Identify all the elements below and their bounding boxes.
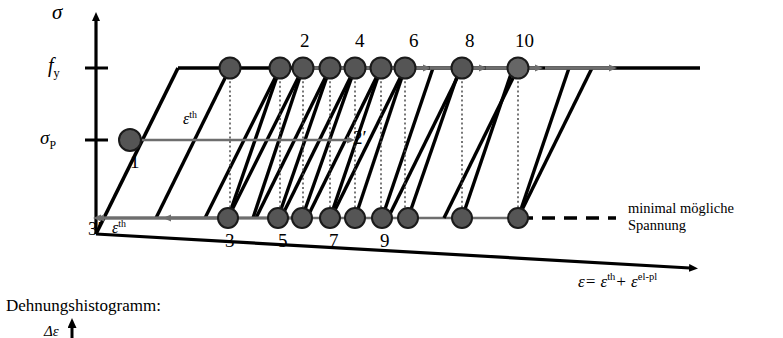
point-label-1: 1 [130, 152, 140, 171]
eps-th-sup-bottom: th [118, 218, 126, 229]
x-axis-label: ε= εth+ εel-pl [578, 272, 657, 290]
point-label-4: 4 [355, 31, 365, 50]
hysteresis-branches [156, 68, 592, 218]
branch-reload-3 [278, 68, 330, 218]
marker-top-8 [452, 58, 473, 79]
thermal-strain-label-bottom: εth [112, 219, 126, 236]
marker-top-3 [293, 58, 314, 79]
figure-caption: Dehnungshistogramm: [6, 297, 161, 314]
point-label-3-prime: 3′ [88, 219, 102, 238]
point-label-6: 6 [409, 31, 419, 50]
point-label-8: 8 [465, 31, 475, 50]
y-axis-label: σ [52, 2, 62, 23]
x-label-eq: = [585, 272, 596, 291]
marker-top-4 [320, 58, 341, 79]
point-label-10: 10 [515, 31, 534, 50]
x-label-lhs: ε [578, 272, 585, 291]
y-tick-label-sigmaP: σP [40, 128, 56, 152]
marker-bottom-7 [398, 208, 418, 228]
branch-unload-10 [518, 68, 592, 218]
min-stress-annotation-line2: Spannung [628, 217, 734, 234]
marker-bottom-9 [508, 208, 528, 228]
branch-reload-1 [228, 68, 280, 218]
x-label-plus: + [615, 272, 626, 291]
branch-reload-9 [462, 68, 513, 218]
eps-th-sup-top: th [189, 109, 197, 120]
x-label-term2: ε [631, 272, 638, 291]
sigmaP-base: σ [40, 127, 49, 148]
point-label-9: 9 [380, 231, 390, 250]
point-label-2-prime: 2′ [353, 128, 367, 147]
marker-bottom-2 [268, 208, 288, 228]
marker-bottom-1 [218, 208, 238, 228]
marker-point-1 [119, 129, 141, 151]
point-label-3: 3 [225, 231, 235, 250]
marker-top-5 [345, 58, 366, 79]
fy-sub: y [54, 66, 60, 80]
x-label-term2-sup: el-pl [638, 271, 657, 282]
thermal-strain-label-top: εth [183, 110, 197, 127]
min-stress-annotation-line1: minimal mögliche [628, 200, 734, 217]
point-label-7: 7 [329, 231, 339, 250]
sigmaP-sub: P [49, 139, 56, 152]
x-axis [96, 234, 690, 268]
marker-bottom-8 [452, 208, 472, 228]
min-stress-annotation: minimal mögliche Spannung [628, 200, 734, 234]
y-tick-label-fy: fy [48, 55, 60, 79]
branch-reload-8 [408, 68, 460, 218]
histogram-axis-label: Δε [44, 324, 59, 338]
marker-top-9 [508, 58, 529, 79]
marker-top-2 [270, 58, 291, 79]
marker-bottom-5 [345, 208, 365, 228]
branch-reload-10 [518, 68, 569, 218]
marker-bottom-3 [292, 208, 312, 228]
marker-top-1 [220, 58, 241, 79]
branch-reload-4 [302, 68, 355, 218]
marker-bottom-6 [372, 208, 392, 228]
stress-strain-diagram [0, 0, 783, 338]
marker-bottom-4 [320, 208, 340, 228]
point-label-2: 2 [300, 31, 310, 50]
marker-top-7 [395, 58, 416, 79]
marker-top-6 [371, 58, 392, 79]
branch-reload-2 [253, 68, 303, 218]
figure-stage: σ fy σP 2 4 6 8 10 3 5 7 9 1 2′ 3′ εth ε… [0, 0, 783, 338]
point-label-5: 5 [278, 231, 288, 250]
